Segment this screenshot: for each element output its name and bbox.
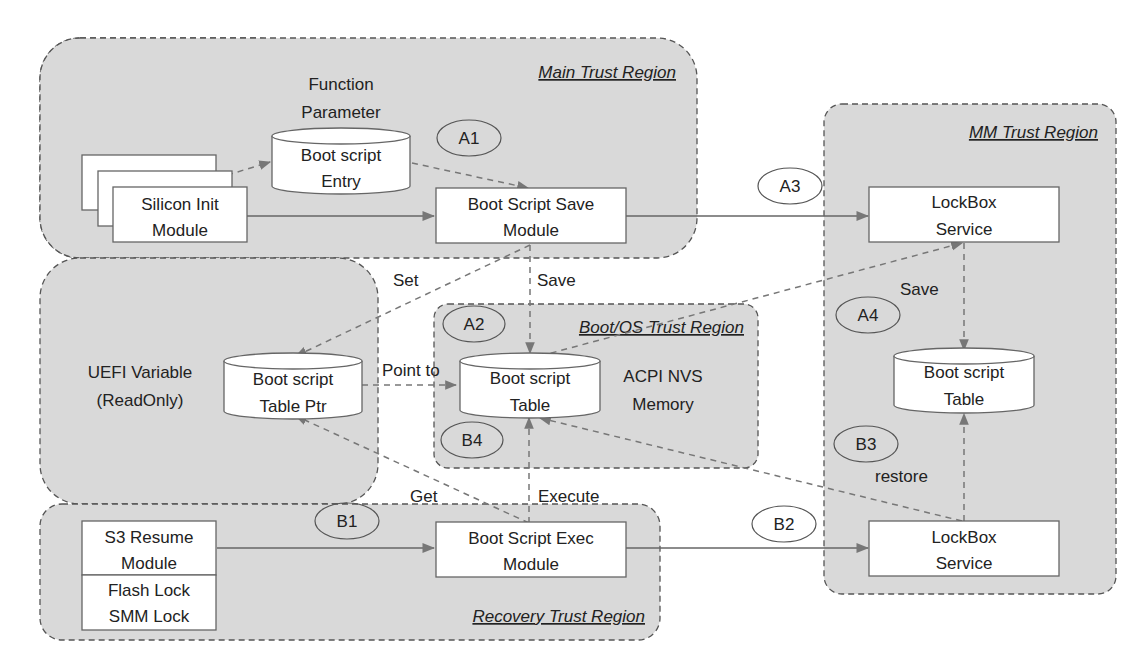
edge-label-point-to: Point to <box>382 361 440 380</box>
svg-text:Module: Module <box>503 221 559 240</box>
uefi-variable-label: UEFI Variable <box>88 363 193 382</box>
mm-trust-region-title: MM Trust Region <box>969 123 1098 142</box>
edge-label-get: Get <box>410 487 438 506</box>
svg-text:Table: Table <box>944 390 985 409</box>
step-b2: B2 <box>752 506 816 542</box>
s3-resume-module[interactable]: S3 Resume Module <box>82 521 216 575</box>
boot-script-table-mm-db[interactable]: Boot script Table <box>894 348 1034 413</box>
svg-text:B1: B1 <box>337 512 358 531</box>
svg-text:A2: A2 <box>464 315 485 334</box>
svg-text:Flash Lock: Flash Lock <box>108 581 191 600</box>
svg-text:A1: A1 <box>459 129 480 148</box>
flash-lock-smm-lock[interactable]: Flash Lock SMM Lock <box>82 575 216 630</box>
svg-text:SMM Lock: SMM Lock <box>109 607 190 626</box>
main-trust-region-title: Main Trust Region <box>538 63 676 82</box>
boot-script-exec-module[interactable]: Boot Script Exec Module <box>436 522 626 577</box>
function-parameter-label-2: Parameter <box>301 103 381 122</box>
edge-label-save-mm: Save <box>900 280 939 299</box>
svg-text:B3: B3 <box>856 435 877 454</box>
boot-script-table-ptr-db[interactable]: Boot script Table Ptr <box>224 353 362 419</box>
function-parameter-label: Function <box>308 75 373 94</box>
svg-text:B4: B4 <box>462 431 483 450</box>
svg-text:Module: Module <box>121 554 177 573</box>
svg-text:Boot script: Boot script <box>924 363 1005 382</box>
step-a3: A3 <box>758 168 822 204</box>
edge-label-set: Set <box>393 271 419 290</box>
svg-text:Service: Service <box>936 220 993 239</box>
svg-text:A3: A3 <box>780 177 801 196</box>
edge-label-save-os: Save <box>537 271 576 290</box>
svg-text:A4: A4 <box>858 306 879 325</box>
edge-label-execute: Execute <box>538 487 599 506</box>
acpi-nvs-label: ACPI NVS <box>623 367 702 386</box>
svg-text:Boot script: Boot script <box>490 369 571 388</box>
lockbox-service-bottom[interactable]: LockBox Service <box>869 521 1059 576</box>
svg-text:LockBox: LockBox <box>931 528 997 547</box>
recovery-trust-region-title: Recovery Trust Region <box>472 607 645 626</box>
svg-text:Boot Script Exec: Boot Script Exec <box>468 529 594 548</box>
uefi-variable-readonly-label: (ReadOnly) <box>97 391 184 410</box>
boot-script-table-os-db[interactable]: Boot script Table <box>460 353 600 418</box>
svg-text:Service: Service <box>936 554 993 573</box>
svg-text:Module: Module <box>152 221 208 240</box>
acpi-nvs-memory-label: Memory <box>632 395 694 414</box>
boot-script-save-module[interactable]: Boot Script Save Module <box>436 188 626 243</box>
svg-text:S3 Resume: S3 Resume <box>105 528 194 547</box>
svg-text:Boot script: Boot script <box>253 370 334 389</box>
svg-text:B2: B2 <box>774 515 795 534</box>
svg-text:LockBox: LockBox <box>931 193 997 212</box>
boot-script-entry-db[interactable]: Boot script Entry <box>272 128 410 194</box>
edge-label-restore: restore <box>875 467 928 486</box>
svg-text:Boot script: Boot script <box>301 146 382 165</box>
boot-os-trust-region-title: Boot/OS Trust Region <box>579 318 744 337</box>
svg-text:Boot Script Save: Boot Script Save <box>468 195 595 214</box>
svg-text:Table: Table <box>510 396 551 415</box>
lockbox-service-top[interactable]: LockBox Service <box>869 187 1059 242</box>
svg-text:Silicon Init: Silicon Init <box>141 195 219 214</box>
svg-text:Entry: Entry <box>321 172 361 191</box>
svg-text:Table Ptr: Table Ptr <box>259 397 326 416</box>
svg-text:Module: Module <box>503 555 559 574</box>
boot-script-trust-diagram: Main Trust Region MM Trust Region Boot/O… <box>0 0 1148 671</box>
